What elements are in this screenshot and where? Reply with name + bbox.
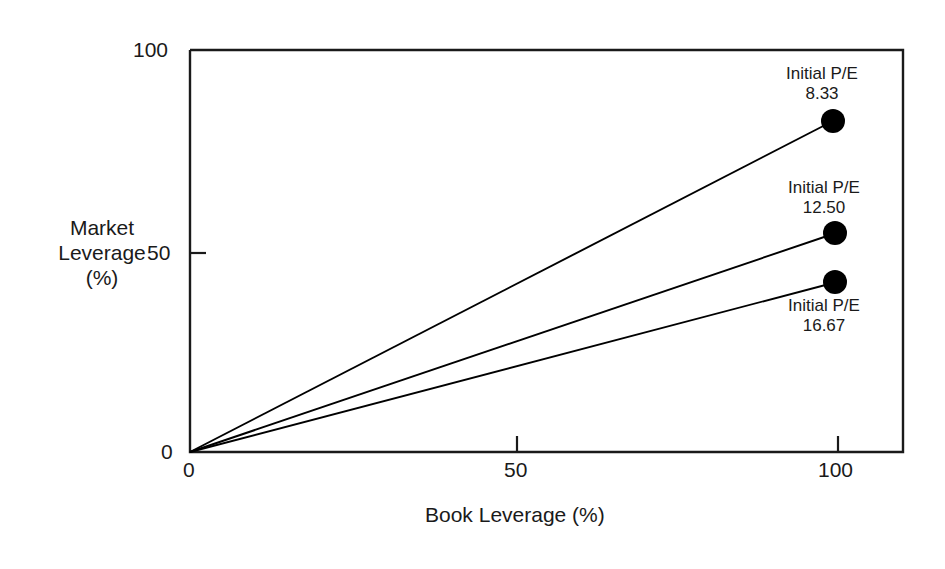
y-axis-title-line-2: Leverage	[22, 241, 182, 266]
x-tick-label-100: 100	[818, 458, 853, 483]
y-axis-title-line-3: (%)	[22, 266, 182, 291]
annotation-pe-16-67-line-1: Initial P/E	[744, 296, 904, 316]
series-line-pe-8-33	[190, 122, 831, 452]
series-line-pe-12-50	[190, 234, 833, 452]
annotation-pe-8-33-line-2: 8.33	[742, 84, 902, 104]
x-tick-label-50: 50	[504, 458, 527, 483]
y-axis-title-line-1: Market	[22, 216, 182, 241]
axis-ticks	[190, 253, 838, 452]
y-tick-label-100: 100	[133, 38, 168, 63]
series-lines	[190, 122, 833, 452]
data-point-pe-12-50	[823, 221, 847, 245]
x-tick-label-0: 0	[183, 458, 195, 483]
data-point-pe-16-67	[823, 270, 847, 294]
x-axis-title: Book Leverage (%)	[425, 503, 605, 528]
annotation-pe-16-67-line-2: 16.67	[744, 316, 904, 336]
annotation-pe-12-50-line-2: 12.50	[744, 198, 904, 218]
annotation-pe-12-50-line-1: Initial P/E	[744, 178, 904, 198]
chart-figure: 100 50 0 0 50 100 Market Leverage (%) Bo…	[0, 0, 945, 569]
y-tick-label-0: 0	[161, 440, 173, 465]
axis-frame	[190, 50, 903, 452]
data-point-pe-8-33	[821, 109, 845, 133]
annotation-pe-8-33-line-1: Initial P/E	[742, 64, 902, 84]
series-line-pe-16-67	[190, 283, 833, 452]
